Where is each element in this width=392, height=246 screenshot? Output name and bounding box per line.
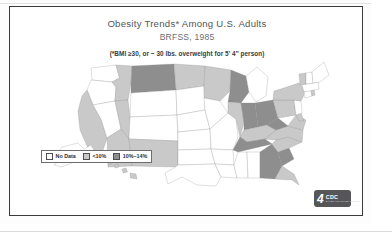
state-HI-3 [122,168,128,173]
state-HI-4 [130,173,137,179]
page-subtitle: BRFSS, 1985 [10,31,363,43]
map-svg [32,59,342,189]
scan-line-top [0,3,392,4]
cdc-logo-text-wrap: CDC SAFER·HEALTHIER·PEOPLE [326,194,361,203]
state-WY [130,90,177,117]
legend-swatch-under-10 [83,153,90,160]
cdc-swoosh-icon: 4 [317,193,324,205]
legend: No Data <10% 10%–14% [41,150,152,163]
state-CO [129,115,178,141]
legend-label-10-to-14: 10%–14% [123,153,148,160]
state-TX [165,164,221,186]
state-ND [174,64,205,90]
legend-label-no-data: No Data [56,153,76,160]
legend-swatch-no-data [46,153,53,160]
us-choropleth-map [32,59,342,189]
state-MT [131,64,176,93]
state-NH [306,72,313,84]
state-ME [312,62,329,83]
state-MS [234,152,248,178]
scan-line-bottom [0,231,392,232]
slide-frame: Obesity Trends* Among U.S. Adults BRFSS,… [9,6,363,216]
state-MI [246,67,268,102]
legend-label-under-10: <10% [92,153,106,160]
state-KS [178,129,211,150]
page-title: Obesity Trends* Among U.S. Adults [10,17,363,30]
state-VT [299,73,306,85]
state-AL [247,152,260,178]
bmi-note: (*BMI ≥30, or ~ 30 lbs. overweight for 5… [10,50,363,57]
legend-item-10-to-14: 10%–14% [113,153,147,160]
state-NY [273,83,306,101]
legend-item-no-data: No Data [46,153,76,160]
cdc-logo: 4 CDC SAFER·HEALTHIER·PEOPLE [314,190,351,207]
legend-item-under-10: <10% [83,153,106,160]
cdc-logo-tagline: SAFER·HEALTHIER·PEOPLE [326,200,361,203]
state-WA [91,65,120,82]
state-MN [204,66,231,101]
page-margin-bottom [0,224,392,246]
state-WI [228,70,249,103]
page-margin-right [371,0,392,246]
title-block: Obesity Trends* Among U.S. Adults BRFSS,… [10,17,363,43]
legend-swatch-10-to-14 [113,153,120,160]
state-OK [178,149,215,165]
